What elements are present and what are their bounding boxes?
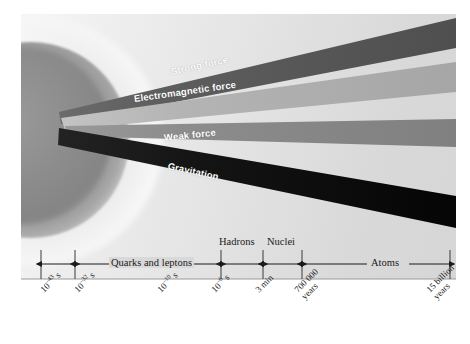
era-label-hadrons: Hadrons (219, 236, 255, 247)
era-label-quarks-and-leptons: Quarks and leptons (109, 257, 194, 268)
timeline-axis: Hadrons Nuclei Quarks and leptons Atoms … (21, 236, 456, 344)
era-label-atoms: Atoms (369, 257, 401, 268)
physics-forces-diagram: Strong force Electromagnetic force Weak … (0, 0, 470, 344)
era-label-nuclei: Nuclei (267, 236, 295, 247)
